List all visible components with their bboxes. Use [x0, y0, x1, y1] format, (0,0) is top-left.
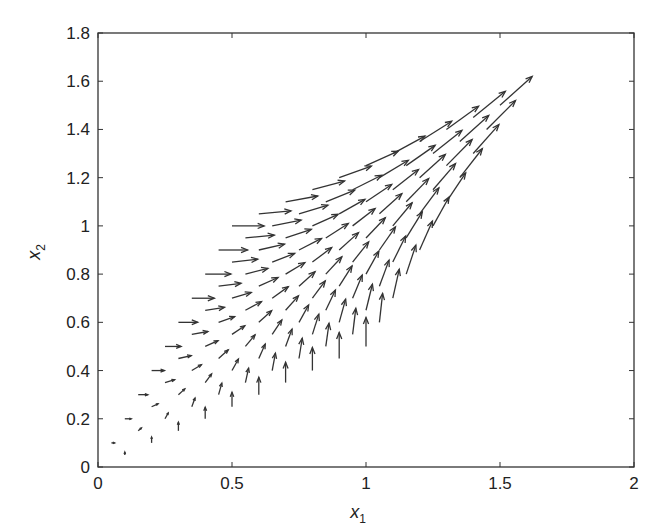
x-axis-ticks: 00.511.52 [93, 33, 638, 493]
quiver-arrow [352, 308, 357, 334]
quiver-arrow [272, 320, 282, 334]
x-tick-label: 1 [361, 474, 370, 493]
quiver-arrow [310, 347, 315, 370]
quiver-arrow [192, 330, 208, 334]
quiver-arrow [178, 389, 184, 395]
quiver-arrow [272, 219, 301, 226]
quiver-arrow [232, 292, 251, 298]
quiver-arrow [366, 284, 373, 310]
quiver-arrow [192, 296, 215, 301]
y-axis-label: x2 [24, 244, 48, 261]
quiver-arrow [245, 302, 261, 311]
quiver-arrow [245, 368, 249, 382]
quiver-arrow [219, 350, 229, 359]
quiver-arrow [312, 248, 331, 262]
quiver-arrow [353, 275, 363, 298]
quiver-arrow [420, 121, 452, 141]
quiver-arrow [259, 277, 278, 286]
quiver-arrow [259, 344, 265, 358]
quiver-arrow [299, 305, 309, 322]
quiver-arrow [138, 428, 141, 431]
quiver-arrow [326, 190, 355, 202]
quiver-arrow [151, 437, 152, 443]
quiver-arrow [286, 296, 299, 310]
x-tick-label: 1.5 [488, 474, 512, 493]
quiver-arrow [326, 290, 336, 310]
quiver-arrow [446, 140, 472, 166]
quiver-arrow [232, 223, 264, 228]
quiver-arrow [433, 164, 456, 190]
quiver-chart: 00.511.52 00.20.40.60.811.21.41.61.8 x1 … [0, 0, 657, 532]
y-tick-label: 1.4 [66, 120, 90, 139]
y-tick-label: 1.8 [66, 24, 90, 43]
quiver-arrow [177, 422, 179, 431]
quiver-arrow [205, 306, 224, 311]
quiver-arrow [259, 311, 272, 323]
quiver-arrow [366, 218, 385, 238]
quiver-arrow [219, 282, 242, 287]
quiver-arrow [379, 227, 395, 250]
y-tick-label: 0.6 [66, 313, 90, 332]
quiver-arrow [192, 365, 202, 371]
quiver-arrow [393, 203, 412, 226]
quiver-arrow [420, 221, 433, 250]
quiver-arrow [393, 136, 425, 153]
quiver-arrow [393, 269, 401, 298]
quiver-arrow [138, 393, 148, 395]
quiver-arrow [353, 209, 376, 226]
quiver-arrow [337, 332, 342, 358]
quiver-arrow [312, 281, 325, 298]
quiver-arrow [272, 287, 288, 299]
quiver-arrow [286, 329, 293, 346]
quiver-arrow [283, 362, 288, 382]
quiver-arrow [205, 374, 211, 383]
quiver-arrows [111, 76, 532, 455]
quiver-arrow [178, 355, 191, 359]
quiver-arrow [406, 212, 422, 238]
quiver-arrow [460, 149, 483, 178]
quiver-arrow [259, 243, 285, 250]
quiver-arrow [312, 180, 344, 189]
y-tick-label: 0.2 [66, 410, 90, 429]
x-axis-label: x1 [349, 502, 366, 526]
quiver-arrow [204, 407, 207, 419]
quiver-arrow [259, 209, 291, 214]
y-tick-label: 0.4 [66, 362, 90, 381]
quiver-arrow [299, 272, 315, 286]
quiver-arrow [272, 353, 276, 370]
quiver-arrow [165, 379, 175, 382]
quiver-arrow [393, 169, 419, 189]
quiver-arrow [406, 145, 435, 165]
quiver-arrow [257, 377, 261, 394]
quiver-arrow [205, 341, 218, 347]
quiver-arrow [339, 199, 365, 213]
quiver-arrow [219, 316, 235, 322]
y-tick-label: 1.6 [66, 72, 90, 91]
quiver-arrow [272, 253, 295, 262]
quiver-arrow [420, 188, 439, 214]
quiver-arrow [232, 359, 238, 371]
y-tick-label: 1 [81, 217, 90, 236]
quiver-arrow [299, 205, 328, 214]
y-tick-label: 0 [81, 458, 90, 477]
quiver-arrow [152, 404, 158, 407]
quiver-arrow [393, 236, 406, 262]
quiver-arrow [446, 173, 465, 202]
quiver-arrow [245, 335, 255, 347]
quiver-arrow [326, 223, 349, 237]
quiver-arrow [286, 195, 318, 202]
quiver-arrow [312, 214, 338, 226]
quiver-arrow [379, 160, 408, 177]
quiver-arrow [232, 257, 258, 262]
quiver-arrow [473, 125, 499, 154]
quiver-arrow [111, 442, 114, 443]
quiver-arrow [178, 320, 197, 325]
quiver-arrow [124, 452, 125, 455]
quiver-arrow [366, 184, 392, 201]
quiver-arrow [152, 369, 165, 372]
quiver-arrow [299, 238, 322, 250]
quiver-arrow [326, 323, 331, 346]
x-tick-label: 0.5 [220, 474, 244, 493]
quiver-arrow [433, 130, 462, 153]
quiver-arrow [286, 263, 305, 275]
